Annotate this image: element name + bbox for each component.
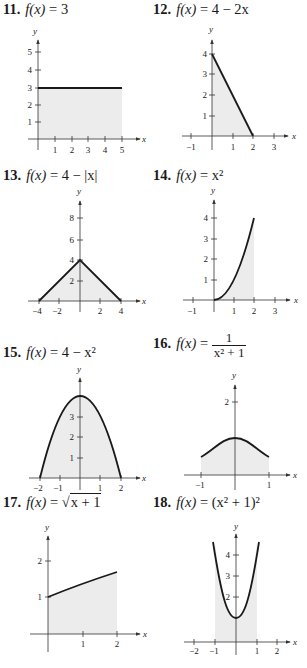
shaded-region: [48, 572, 117, 634]
svg-text:y: y: [76, 364, 81, 374]
svg-text:4: 4: [28, 65, 33, 75]
svg-text:x: x: [141, 134, 146, 144]
svg-text:x: x: [141, 296, 146, 306]
chart-18: −2−112 234 x y: [184, 521, 297, 656]
svg-text:2: 2: [98, 306, 103, 316]
svg-text:3: 3: [204, 234, 209, 244]
y-tick-labels: 12345: [28, 47, 33, 127]
svg-text:2: 2: [70, 276, 75, 286]
svg-text:2: 2: [115, 639, 120, 649]
chart-16: −11 2 x y: [184, 370, 297, 490]
svg-text:y: y: [32, 26, 37, 36]
svg-text:2: 2: [275, 646, 280, 656]
chart-13: −4−224 2468 x y: [28, 186, 146, 316]
svg-text:3: 3: [273, 306, 278, 316]
svg-text:−2: −2: [33, 483, 43, 493]
svg-text:2: 2: [251, 142, 256, 152]
svg-text:y: y: [231, 370, 236, 380]
chart-15: −2−112 123 x y: [29, 364, 146, 493]
svg-text:−1: −1: [187, 306, 197, 316]
chart-14: −1123 1234 x y: [183, 185, 298, 316]
chart-17: 12 12 x y: [30, 522, 147, 652]
svg-text:y: y: [44, 522, 49, 532]
svg-text:4: 4: [226, 550, 231, 560]
chart-11: 12345 12345 x y: [28, 26, 147, 155]
svg-text:1: 1: [28, 117, 33, 127]
shaded-region: [38, 88, 122, 139]
x-tick-labels: 12345: [53, 145, 125, 155]
svg-text:2: 2: [38, 556, 43, 566]
svg-text:y: y: [208, 24, 213, 34]
svg-text:1: 1: [38, 592, 43, 602]
svg-text:6: 6: [70, 235, 75, 245]
svg-text:x: x: [292, 470, 297, 480]
shaded-region: [214, 218, 254, 300]
svg-text:2: 2: [226, 592, 231, 602]
svg-text:2: 2: [203, 90, 208, 100]
svg-text:−1: −1: [195, 480, 205, 490]
svg-text:3: 3: [28, 83, 33, 93]
svg-text:2: 2: [70, 432, 75, 442]
svg-text:4: 4: [70, 255, 75, 265]
svg-text:1: 1: [70, 453, 75, 463]
svg-text:2: 2: [28, 100, 33, 110]
svg-text:y: y: [233, 521, 238, 531]
svg-text:−2: −2: [189, 646, 199, 656]
svg-text:x: x: [293, 295, 298, 305]
svg-text:5: 5: [28, 47, 33, 57]
svg-text:3: 3: [226, 571, 231, 581]
svg-text:5: 5: [120, 145, 125, 155]
plots-canvas: 12345 12345 x y −1123 1234 x y: [0, 0, 307, 668]
svg-text:1: 1: [204, 275, 209, 285]
svg-text:2: 2: [252, 306, 257, 316]
svg-text:3: 3: [70, 412, 75, 422]
svg-text:−1: −1: [53, 483, 63, 493]
svg-text:x: x: [292, 637, 297, 647]
svg-text:1: 1: [203, 111, 208, 121]
svg-text:−1: −1: [209, 646, 219, 656]
svg-text:y: y: [76, 186, 81, 196]
svg-text:−1: −1: [186, 142, 196, 152]
svg-text:y: y: [210, 185, 215, 195]
svg-text:4: 4: [119, 306, 124, 316]
svg-text:x: x: [142, 629, 147, 639]
svg-text:1: 1: [53, 145, 58, 155]
svg-text:x: x: [291, 131, 296, 141]
svg-text:1: 1: [232, 306, 237, 316]
svg-text:1: 1: [231, 142, 236, 152]
svg-text:4: 4: [204, 213, 209, 223]
svg-text:8: 8: [70, 213, 75, 223]
svg-text:−4: −4: [32, 306, 42, 316]
svg-text:2: 2: [204, 254, 209, 264]
svg-text:1: 1: [98, 483, 103, 493]
svg-text:2: 2: [225, 397, 230, 407]
svg-text:1: 1: [81, 639, 86, 649]
svg-text:2: 2: [119, 483, 124, 493]
svg-text:3: 3: [272, 142, 277, 152]
svg-text:1: 1: [255, 646, 260, 656]
chart-12: −1123 1234 x y: [182, 24, 296, 152]
svg-text:3: 3: [203, 69, 208, 79]
svg-text:2: 2: [70, 145, 75, 155]
svg-text:1: 1: [267, 480, 272, 490]
svg-text:−2: −2: [52, 306, 62, 316]
svg-text:4: 4: [203, 49, 208, 59]
svg-text:x: x: [141, 473, 146, 483]
svg-text:4: 4: [103, 145, 108, 155]
svg-text:3: 3: [86, 145, 91, 155]
